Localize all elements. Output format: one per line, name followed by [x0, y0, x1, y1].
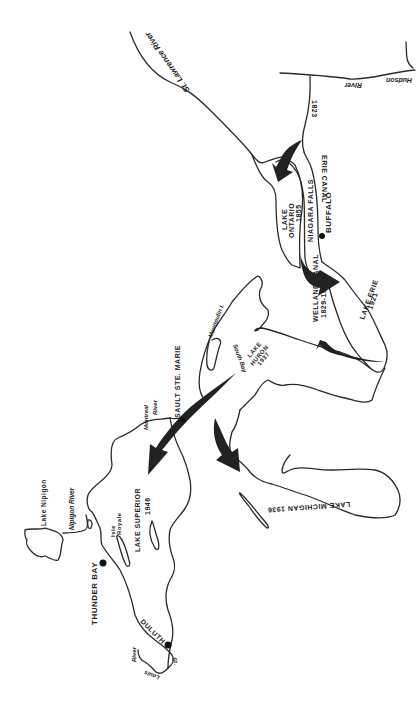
- huron-south-shore: [240, 368, 385, 410]
- lake-nipigon: [25, 528, 63, 561]
- louis-river-label: River: [131, 646, 137, 662]
- louis-label: Louis: [143, 669, 161, 680]
- lake-ontario-year-label: 1855: [295, 204, 302, 222]
- sault-ste-marie-dot: [181, 418, 186, 423]
- lake-superior-south-shore: [166, 418, 191, 668]
- manitoulin-island: [207, 338, 221, 370]
- st-label: St.: [171, 656, 179, 666]
- thunder-bay-label: THUNDER BAY: [90, 562, 99, 625]
- manitoulin-label: Manitoulin I.: [207, 303, 225, 338]
- st-lawrence-river-label: St. Lawrence River: [143, 29, 192, 94]
- isle-royale: [117, 536, 130, 567]
- buffalo-label: BUFFALO: [324, 192, 333, 233]
- lake-superior-label: LAKE SUPERIOR: [134, 488, 141, 552]
- st-louis-river: [138, 650, 168, 673]
- nipigon-river-label: Nipigon River: [68, 487, 76, 530]
- hudson-river-label: River: [343, 82, 362, 89]
- great-lakes-map: St. Lawrence River Hudson River 1823 ERI…: [0, 0, 417, 710]
- keweenaw-peninsula: [150, 521, 159, 550]
- welland-canal-label: WELLAND CANAL: [312, 254, 319, 322]
- lake-michigan-label: LAKE MICHIGAN 1936: [267, 501, 350, 514]
- niagara-falls-label: NIAGARA FALLS: [307, 179, 314, 242]
- lake-michigan-shore: [230, 410, 400, 518]
- hudson-river-east: [406, 42, 413, 68]
- welland-canal-years-label: 1829-1933: [320, 280, 327, 318]
- montreal-label: Montreal: [143, 405, 149, 430]
- nipigon-river: [63, 515, 87, 533]
- lake-ontario-label-2: ONTARIO: [288, 203, 295, 238]
- lake-ontario-label-1: LAKE: [281, 209, 288, 230]
- hudson-label: Hudson: [386, 77, 412, 84]
- erie-canal-line: [303, 76, 311, 152]
- green-bay: [239, 493, 268, 528]
- sault-ste-marie-label: SAULT STE. MARIE: [174, 345, 181, 418]
- nipigon-bay-island: [88, 520, 92, 529]
- duluth-dot: [165, 642, 172, 649]
- thunder-bay-dot: [100, 560, 107, 567]
- duluth-label: DULUTH: [139, 618, 166, 645]
- arrow-to-lake-michigan: [214, 418, 240, 472]
- montreal-river-label: River: [152, 399, 158, 415]
- lake-nipigon-label: Lake Nipigon: [40, 479, 48, 526]
- lake-superior-year-label: 1946: [144, 497, 151, 515]
- erie-canal-year-label: 1823: [311, 100, 318, 118]
- south-bay-label: South Bay: [232, 343, 248, 374]
- royale-label: Royale: [116, 512, 122, 535]
